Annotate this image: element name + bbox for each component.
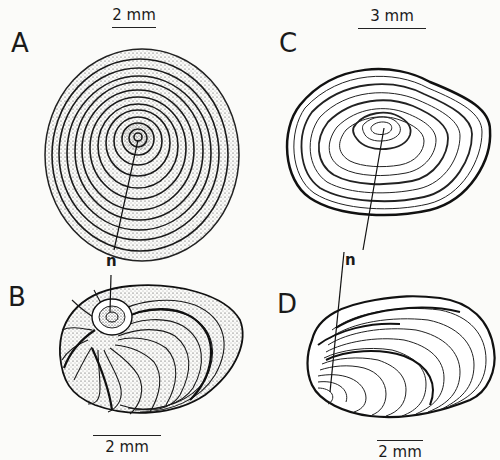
scale-bar-c: 3 mm bbox=[358, 9, 426, 29]
panel-d-shell bbox=[308, 252, 495, 417]
scale-line-c bbox=[358, 28, 426, 29]
scale-label-d: 2 mm bbox=[378, 443, 422, 460]
scale-bar-b: 2 mm bbox=[93, 435, 161, 455]
nucleus-label-left: n bbox=[106, 254, 117, 269]
figure-drawing bbox=[0, 0, 500, 460]
panel-label-d: D bbox=[277, 291, 297, 317]
panel-label-b: B bbox=[8, 284, 26, 310]
panel-a-operculum bbox=[45, 49, 239, 261]
panel-b-shell bbox=[60, 275, 243, 414]
scale-line-d bbox=[377, 440, 423, 441]
scale-line-b bbox=[93, 435, 161, 436]
scale-line-a bbox=[112, 27, 156, 28]
scale-label-c: 3 mm bbox=[370, 7, 414, 25]
scale-bar-a: 2 mm bbox=[112, 8, 156, 28]
nucleus-label-right: n bbox=[345, 253, 356, 268]
scale-bar-d: 2 mm bbox=[377, 440, 423, 460]
panel-label-a: A bbox=[11, 30, 29, 56]
panel-c-operculum bbox=[287, 69, 490, 250]
scale-label-b: 2 mm bbox=[105, 438, 149, 456]
panel-label-c: C bbox=[279, 30, 297, 56]
scale-label-a: 2 mm bbox=[112, 6, 156, 24]
